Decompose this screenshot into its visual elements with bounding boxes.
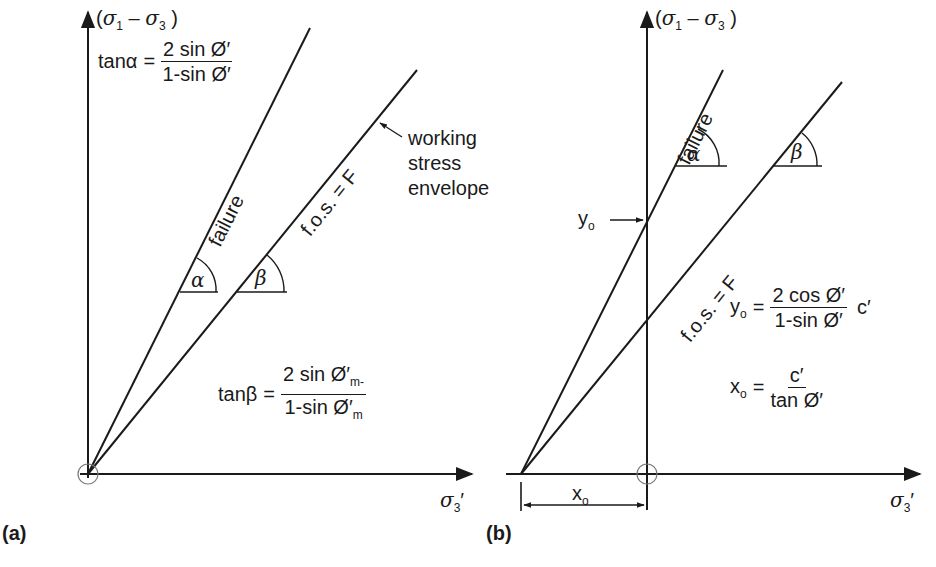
panel-b-x-axis-label: σ3′ <box>890 488 914 515</box>
panel-a-beta-arc <box>267 255 284 292</box>
panel-b-beta-label: β <box>791 140 803 164</box>
panel-b-graphics <box>506 12 920 511</box>
working-stress-pointer <box>380 123 402 137</box>
working-stress-envelope-label: working stress envelope <box>408 126 489 201</box>
panel-b-beta-arc <box>802 133 817 166</box>
panel-b-yo-equation: yo = 2 cos Ø′1-sin Ø′ c′ <box>730 284 871 331</box>
panel-a-beta-label: β <box>255 266 267 290</box>
panel-a-tan-alpha-equation: tanα = 2 sin Ø′1-sin Ø′ <box>98 38 232 85</box>
panel-b-y-axis-label: (σ1 – σ3 ) <box>655 6 737 33</box>
panel-a-y-axis-label: (σ1 – σ3 ) <box>96 6 178 33</box>
panel-a-alpha-label: α <box>191 268 205 292</box>
panel-b-alpha-label: α <box>687 142 701 166</box>
panel-a-label: (a) <box>2 522 26 545</box>
panel-b-xo-equation: xo = c′tan Ø′ <box>730 364 823 411</box>
yo-label: yo <box>578 207 595 233</box>
xo-label: xo <box>572 482 589 508</box>
panel-b-label: (b) <box>486 522 512 545</box>
panel-a-x-axis-label: σ3′ <box>440 488 464 515</box>
panel-a-tan-beta-equation: tanβ = 2 sin Ø′m-1-sin Ø′m <box>218 363 366 426</box>
